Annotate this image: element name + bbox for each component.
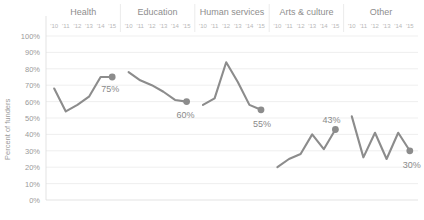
x-tick-label: '12	[297, 23, 305, 29]
x-tick-label: '12	[148, 23, 156, 29]
category-label-arts-culture: Arts & culture	[279, 7, 333, 17]
x-tick-label: '13	[234, 23, 242, 29]
x-tick-label: '15	[108, 23, 116, 29]
x-tick-label: '15	[406, 23, 414, 29]
x-tick-label: '10	[50, 23, 58, 29]
x-tick-label: '10	[199, 23, 207, 29]
series-line-other	[352, 116, 410, 159]
x-tick-label: '10	[348, 23, 356, 29]
x-tick-label: '15	[183, 23, 191, 29]
x-tick-label: '11	[360, 23, 368, 29]
category-label-human-services: Human services	[200, 7, 265, 17]
series-line-health	[54, 77, 112, 111]
y-tick-label: 80%	[25, 65, 40, 74]
y-tick-label: 90%	[25, 48, 40, 57]
endpoint-marker-education	[183, 98, 190, 105]
endpoint-marker-other	[406, 147, 413, 154]
y-tick-label: 30%	[25, 147, 40, 156]
x-tick-label: '12	[73, 23, 81, 29]
y-tick-label: 0%	[29, 196, 40, 205]
category-label-education: Education	[138, 7, 178, 17]
category-label-other: Other	[370, 7, 393, 17]
y-tick-label: 100%	[21, 32, 41, 41]
x-tick-label: '11	[285, 23, 293, 29]
x-tick-label: '13	[383, 23, 391, 29]
category-label-health: Health	[70, 7, 96, 17]
series-line-human-services	[203, 62, 261, 110]
chart-container: Percent of funders 100% 90% 80% 70% 60% …	[0, 0, 424, 220]
x-tick-label: '13	[85, 23, 93, 29]
y-tick-label: 20%	[25, 163, 40, 172]
x-tick-label: '15	[331, 23, 339, 29]
series-line-education	[129, 72, 187, 102]
endpoint-marker-human-services	[258, 106, 265, 113]
y-tick-label: 70%	[25, 81, 40, 90]
series-line-arts-culture	[277, 129, 335, 167]
x-tick-label: '11	[211, 23, 219, 29]
x-tick-label: '14	[97, 23, 105, 29]
x-tick-label: '13	[308, 23, 316, 29]
x-tick-label: '10	[273, 23, 281, 29]
y-axis-title-group: Percent of funders	[3, 98, 12, 160]
x-tick-label: '11	[62, 23, 70, 29]
x-tick-label: '13	[159, 23, 167, 29]
data-label-other: 30%	[403, 160, 421, 170]
y-axis-tick-labels: 100% 90% 80% 70% 60% 50% 40% 30% 20% 10%…	[21, 32, 41, 205]
series-layer	[54, 62, 413, 167]
data-label-human-services: 55%	[253, 119, 271, 129]
endpoint-marker-arts-culture	[332, 126, 339, 133]
y-tick-label: 40%	[25, 130, 40, 139]
x-tick-label: '14	[394, 23, 402, 29]
data-label-health: 75%	[101, 84, 119, 94]
x-tick-label: '11	[137, 23, 145, 29]
line-chart-svg: Percent of funders 100% 90% 80% 70% 60% …	[0, 0, 424, 220]
gridlines	[46, 16, 418, 200]
data-label-education: 60%	[177, 110, 195, 120]
y-tick-label: 60%	[25, 98, 40, 107]
x-tick-label: '14	[320, 23, 328, 29]
x-tick-label: '15	[257, 23, 265, 29]
x-tick-label: '12	[222, 23, 230, 29]
data-label-layer: 75%60%55%43%30%	[101, 84, 421, 170]
y-tick-label: 50%	[25, 114, 40, 123]
x-tick-label: '14	[245, 23, 253, 29]
x-tick-label: '10	[125, 23, 133, 29]
x-axis-tick-labels: '10 '11 '12 '13 '14 '15 '10 '11 '12 '13 …	[50, 23, 414, 29]
y-axis-title: Percent of funders	[3, 98, 12, 160]
x-tick-label: '14	[171, 23, 179, 29]
y-tick-label: 10%	[25, 180, 40, 189]
data-label-arts-culture: 43%	[322, 115, 340, 125]
endpoint-marker-health	[109, 74, 116, 81]
x-tick-label: '12	[371, 23, 379, 29]
